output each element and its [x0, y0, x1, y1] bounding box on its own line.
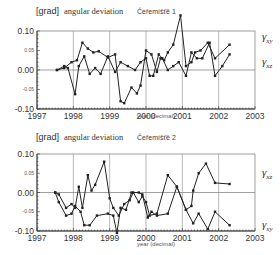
data-point-marker — [156, 214, 158, 216]
data-point-marker — [228, 43, 230, 45]
data-point-marker — [145, 57, 147, 59]
data-point-marker — [94, 184, 96, 186]
data-point-marker — [90, 189, 92, 191]
data-point-marker — [63, 65, 65, 67]
data-point-marker — [108, 197, 110, 199]
data-point-marker — [107, 55, 109, 57]
data-point-marker — [94, 67, 96, 69]
series-label-xy: γxy — [262, 218, 273, 233]
data-point-marker — [65, 207, 67, 209]
data-point-marker — [130, 191, 132, 193]
data-point-marker — [123, 203, 125, 205]
data-point-marker — [58, 193, 60, 195]
data-point-marker — [138, 201, 140, 203]
data-point-marker — [201, 57, 203, 59]
data-point-marker — [172, 43, 174, 45]
data-point-marker — [67, 67, 69, 69]
data-point-marker — [228, 183, 230, 185]
data-point-marker — [78, 186, 80, 188]
plot-area: 0.100.050.00-0.05-0.10199719981999200020… — [15, 149, 274, 247]
x-tick-label: 2003 — [246, 111, 265, 121]
x-tick-label: 2001 — [173, 111, 192, 121]
x-tick-label: 1998 — [64, 111, 83, 121]
data-point-marker — [119, 61, 121, 63]
x-tick-label: 2002 — [209, 111, 228, 121]
data-point-marker — [88, 73, 90, 75]
data-point-marker — [127, 65, 129, 67]
x-axis-label: year (decimal) — [137, 113, 175, 119]
series-label-xy: γxy — [262, 30, 273, 45]
data-point-marker — [139, 84, 141, 86]
data-point-marker — [190, 51, 192, 53]
data-point-marker — [136, 92, 138, 94]
y-tick-label: -0.05 — [23, 86, 35, 92]
data-point-marker — [196, 57, 198, 59]
data-point-marker — [112, 214, 114, 216]
series-label-xz: γxz — [262, 166, 272, 181]
data-point-marker — [176, 186, 178, 188]
data-point-marker — [199, 49, 201, 51]
data-point-marker — [54, 191, 56, 193]
title-unit: [grad] — [36, 6, 59, 16]
title-unit: [grad] — [36, 132, 59, 142]
data-point-marker — [96, 214, 98, 216]
data-point-marker — [74, 205, 76, 207]
data-point-marker — [123, 102, 125, 104]
data-point-marker — [87, 47, 89, 49]
data-point-marker — [112, 207, 114, 209]
chart-title: angular deviation — [64, 6, 124, 16]
data-point-marker — [83, 55, 85, 57]
data-point-marker — [214, 57, 216, 59]
data-point-marker — [185, 65, 187, 67]
data-point-marker — [214, 211, 216, 213]
data-point-marker — [92, 51, 94, 53]
data-point-marker — [150, 53, 152, 55]
data-point-marker — [150, 211, 152, 213]
x-tick-label: 2002 — [209, 233, 228, 243]
chart-title: angular deviation — [64, 132, 124, 142]
data-point-marker — [65, 214, 67, 216]
data-point-marker — [56, 69, 58, 71]
data-point-marker — [197, 212, 199, 214]
y-tick-label: 0.05 — [24, 170, 34, 176]
x-tick-label: 1999 — [100, 233, 119, 243]
data-point-marker — [158, 53, 160, 55]
x-tick-label: 1997 — [28, 233, 47, 243]
data-point-marker — [88, 224, 90, 226]
data-point-marker — [70, 203, 72, 205]
data-point-marker — [190, 205, 192, 207]
data-point-marker — [145, 201, 147, 203]
data-point-marker — [167, 212, 169, 214]
data-point-marker — [145, 49, 147, 51]
y-tick-label: 0.10 — [17, 26, 34, 36]
data-point-marker — [58, 201, 60, 203]
x-tick-label: 1997 — [28, 111, 47, 121]
plot-area: 0.100.050.00-0.05-0.10199719981999200020… — [15, 14, 274, 121]
data-point-marker — [81, 42, 83, 44]
data-point-marker — [179, 14, 181, 16]
data-point-marker — [130, 86, 132, 88]
data-point-marker — [205, 162, 207, 164]
data-point-marker — [185, 209, 187, 211]
data-point-marker — [107, 212, 109, 214]
data-point-marker — [99, 73, 101, 75]
chart-bottom-cheremiste-2: [grad] angular deviation Čeřemíšťě 2 0.1… — [0, 125, 280, 255]
data-point-marker — [192, 189, 194, 191]
data-point-marker — [192, 222, 194, 224]
data-point-marker — [103, 161, 105, 163]
data-point-marker — [185, 75, 187, 77]
data-point-marker — [79, 211, 81, 213]
x-axis-label: year (decimal) — [137, 241, 175, 247]
data-point-marker — [81, 207, 83, 209]
y-tick-label: 0.00 — [17, 188, 34, 198]
data-point-marker — [148, 75, 150, 77]
data-point-marker — [197, 172, 199, 174]
station-name: Čeřemíšťě 1 — [137, 7, 176, 15]
data-point-marker — [114, 53, 116, 55]
data-point-marker — [119, 100, 121, 102]
y-tick-label: 0.00 — [17, 65, 34, 75]
y-tick-label: -0.05 — [23, 208, 35, 214]
data-point-marker — [141, 193, 143, 195]
chart-top-svg: [grad] angular deviation Čeřemíšťě 1 0.1… — [0, 0, 280, 127]
data-point-marker — [87, 174, 89, 176]
